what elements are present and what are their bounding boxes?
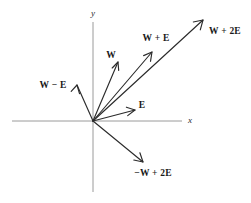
x-axis-label: x [188, 116, 192, 125]
vector-w [93, 62, 119, 121]
vector-label-w: W [106, 51, 116, 61]
y-axis-label: y [91, 9, 95, 18]
vector-label-w-plus-e: W + E [143, 34, 170, 44]
vector-negative-w-plus-2e [93, 121, 143, 162]
vector-label-w-minus-e: W − E [40, 81, 67, 91]
arrowhead-w-minus-e [71, 85, 79, 94]
vector-label-e: E [139, 101, 146, 111]
vector-label-negative-w-plus-2e: −W + 2E [134, 169, 171, 179]
vector-diagram-figure: y x W W + E W + 2E W − E E −W + 2E [0, 0, 251, 203]
vector-label-w-plus-2e: W + 2E [209, 27, 241, 37]
vector-w-minus-e [71, 85, 93, 121]
